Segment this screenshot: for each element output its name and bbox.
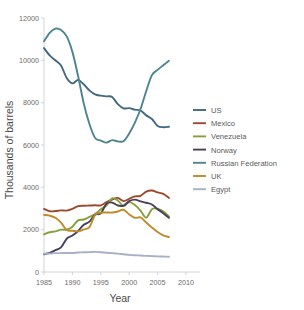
y-tick-label: 12000: [19, 14, 39, 23]
legend-item-label: Mexico: [211, 119, 235, 128]
x-tick-label: 1995: [93, 278, 109, 287]
chart-canvas: 020004000600080001000012000 198519901995…: [0, 0, 304, 310]
series-line-russian-federation: [44, 28, 169, 142]
legend-item-russian-federation[interactable]: Russian Federation: [193, 159, 277, 168]
legend-item-venezuela[interactable]: Venezuela: [193, 132, 247, 141]
legend-item-label: Venezuela: [211, 132, 247, 141]
legend-item-mexico[interactable]: Mexico: [193, 119, 235, 128]
legend-item-uk[interactable]: UK: [193, 172, 222, 181]
y-tick-label: 10000: [19, 56, 39, 65]
series-line-egypt: [44, 252, 169, 257]
legend-item-label: US: [211, 106, 222, 115]
x-tick-label: 2000: [121, 278, 137, 287]
x-tick-label: 2005: [150, 278, 166, 287]
legend-item-egypt[interactable]: Egypt: [193, 185, 231, 194]
line-chart-figure: 020004000600080001000012000 198519901995…: [0, 0, 304, 310]
plot-area: 020004000600080001000012000 198519901995…: [19, 14, 200, 287]
y-tick-label: 0: [35, 268, 39, 277]
y-tick-label: 6000: [23, 141, 39, 150]
y-axis-title: Thousands of barrels: [3, 101, 15, 200]
legend-item-us[interactable]: US: [193, 106, 222, 115]
series-line-mexico: [44, 190, 169, 211]
x-axis-title: Year: [109, 292, 131, 304]
x-tick-label: 1985: [36, 278, 52, 287]
y-tick-label: 2000: [23, 225, 39, 234]
y-tick-label: 8000: [23, 98, 39, 107]
legend: USMexicoVenezuelaNorwayRussian Federatio…: [193, 106, 277, 194]
x-tick-label: 1990: [64, 278, 80, 287]
series-line-us: [44, 48, 169, 127]
y-axis: 020004000600080001000012000: [19, 14, 44, 277]
legend-item-norway[interactable]: Norway: [193, 146, 237, 155]
x-axis: 198519901995200020052010: [36, 272, 200, 287]
legend-item-label: UK: [211, 172, 222, 181]
legend-item-label: Russian Federation: [211, 159, 277, 168]
series-lines: [44, 28, 169, 256]
legend-item-label: Egypt: [211, 185, 231, 194]
series-line-uk: [44, 210, 169, 237]
legend-item-label: Norway: [211, 146, 237, 155]
x-tick-label: 2010: [178, 278, 194, 287]
y-tick-label: 4000: [23, 183, 39, 192]
